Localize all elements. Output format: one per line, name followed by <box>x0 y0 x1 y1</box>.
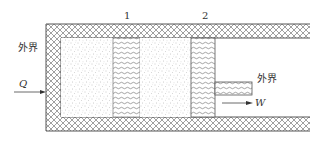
region-1-label: 1 <box>124 11 130 21</box>
piston-2 <box>191 38 215 117</box>
surroundings-left-label: 外界 <box>18 43 38 53</box>
region-2-label: 2 <box>202 11 208 21</box>
partition-1 <box>113 38 140 117</box>
heat-label: Q <box>19 79 27 89</box>
heat-arrow <box>14 90 46 94</box>
work-label: W <box>255 98 265 108</box>
surroundings-right-label: 外界 <box>257 74 277 84</box>
gas-region-a <box>61 38 113 117</box>
gas-region-b <box>140 38 191 117</box>
work-arrow <box>222 101 253 105</box>
piston-rod <box>215 82 252 95</box>
